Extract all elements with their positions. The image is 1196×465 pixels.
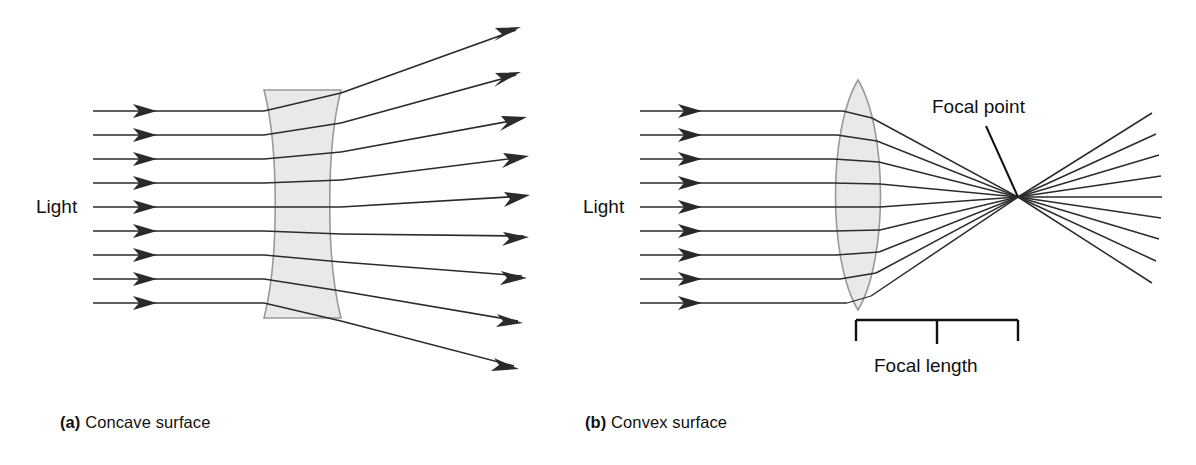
- panel-concave: Light: [36, 27, 530, 371]
- focal-length-bracket: [856, 320, 1018, 344]
- light-label-concave: Light: [36, 196, 78, 217]
- incoming-rays-convex: [640, 111, 847, 303]
- focal-length-label: Focal length: [874, 355, 978, 376]
- caption-convex-tag: (b): [585, 413, 606, 431]
- outgoing-ray-arrowheads-concave: [491, 27, 530, 371]
- caption-concave-text: Concave surface: [85, 413, 210, 431]
- lens-diagram-figure: Light: [0, 0, 1196, 465]
- diverging-rays-after-focus: [1018, 113, 1162, 283]
- panel-convex: Focal point Focal length Light: [583, 80, 1162, 376]
- converging-rays-convex: [871, 118, 1018, 296]
- focal-point-label: Focal point: [932, 96, 1026, 117]
- caption-convex-text: Convex surface: [611, 413, 727, 431]
- light-label-convex: Light: [583, 196, 625, 217]
- incoming-rays-concave: [93, 111, 264, 303]
- caption-concave: (a) Concave surface: [60, 413, 210, 432]
- caption-convex: (b) Convex surface: [585, 413, 727, 432]
- caption-concave-tag: (a): [60, 413, 80, 431]
- outgoing-rays-concave: [341, 30, 525, 366]
